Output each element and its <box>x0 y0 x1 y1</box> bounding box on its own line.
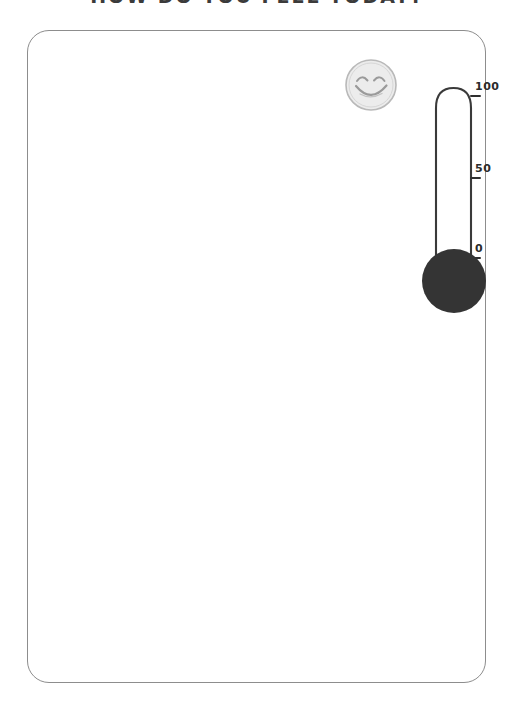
thermometer-bulb <box>422 249 486 313</box>
tick-label-50: 50 <box>475 162 491 175</box>
page-title-strip: HOW DO YOU FEEL TODAY? <box>0 0 514 9</box>
figure-canvas: 100 50 0 <box>28 31 487 684</box>
tick-label-0: 0 <box>475 242 483 255</box>
page-title: HOW DO YOU FEEL TODAY? <box>90 0 424 7</box>
tick-label-100: 100 <box>475 80 499 93</box>
thermometer: 100 50 0 <box>388 51 487 316</box>
thermometer-graphic <box>388 51 487 316</box>
illustration-card: 100 50 0 <box>27 30 486 683</box>
